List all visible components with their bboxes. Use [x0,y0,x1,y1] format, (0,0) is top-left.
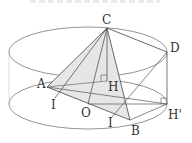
label-B: B [131,125,140,137]
label-H-prime: H' [168,109,182,121]
label-H: H [108,81,118,93]
label-D: D [170,42,180,54]
geometry-diagram [0,0,192,143]
label-I-left: I [51,99,56,111]
edge-BH-prime [130,104,167,120]
label-A: A [37,78,46,90]
label-I-right: I [108,117,113,129]
label-O: O [81,107,91,119]
label-C: C [102,14,111,26]
